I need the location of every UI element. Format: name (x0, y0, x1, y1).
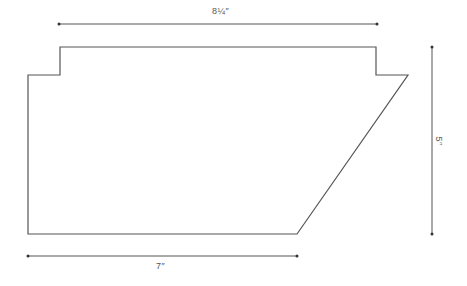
diagram-canvas (0, 0, 467, 286)
bottom-dimension-label: 7″ (156, 261, 165, 271)
top-dimension-label: 8¼″ (212, 6, 229, 16)
panel-outline (28, 47, 408, 234)
top-dimension-line (58, 23, 379, 26)
right-dimension-label: 5″ (434, 136, 444, 145)
bottom-dimension-line (27, 255, 299, 258)
